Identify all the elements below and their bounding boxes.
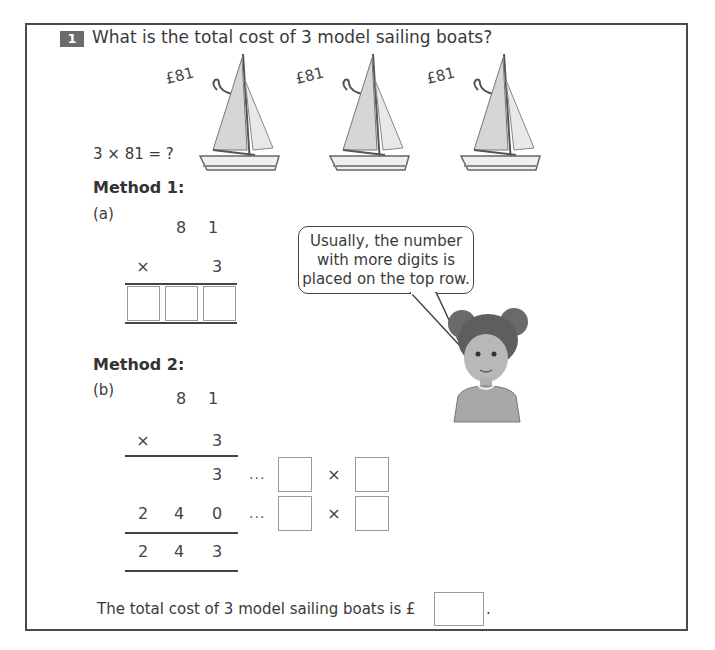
- partial2-tens: 4: [171, 504, 187, 523]
- method1-multiplier: 3: [209, 257, 225, 276]
- conclusion-text: The total cost of 3 model sailing boats …: [97, 600, 416, 618]
- girl-character-illustration: [440, 300, 535, 425]
- partial1-factor-box-1[interactable]: [278, 457, 312, 492]
- total-hundreds: 2: [135, 542, 151, 561]
- method2-tens-digit: 8: [173, 389, 189, 408]
- conclusion-period: .: [486, 600, 491, 618]
- method1-operator: ×: [135, 257, 151, 276]
- method1-ones-digit: 1: [205, 218, 221, 237]
- partial2-hundreds: 2: [135, 504, 151, 523]
- partial1-factor-box-2[interactable]: [355, 457, 389, 492]
- method1-answer-box-tens[interactable]: [165, 286, 198, 321]
- method1-bottom-rule: [125, 322, 237, 324]
- partial2-times: ×: [326, 504, 342, 523]
- partial2-ones: 0: [209, 504, 225, 523]
- speech-line-2: with more digits is: [299, 251, 473, 270]
- equation-text: 3 × 81 = ?: [93, 145, 174, 163]
- method1-answer-box-hundreds[interactable]: [127, 286, 160, 321]
- method2-rule-1: [125, 455, 238, 457]
- method2-rule-2: [125, 532, 238, 534]
- question-number-badge: 1: [60, 31, 84, 47]
- sailboat-icon: [325, 52, 415, 177]
- method2-operator: ×: [135, 431, 151, 450]
- method1-answer-box-ones[interactable]: [203, 286, 236, 321]
- total-ones: 3: [209, 542, 225, 561]
- partial2-factor-box-2[interactable]: [355, 496, 389, 531]
- partial1-ellipsis: ...: [249, 466, 265, 482]
- speech-line-3: placed on the top row.: [299, 270, 473, 289]
- speech-line-1: Usually, the number: [299, 232, 473, 251]
- total-tens: 4: [171, 542, 187, 561]
- method2-rule-3: [125, 570, 238, 572]
- speech-bubble: Usually, the number with more digits is …: [298, 226, 474, 294]
- partial1-ones: 3: [209, 465, 225, 484]
- sailboat-icon: [456, 52, 546, 177]
- sailboat-icon: [195, 52, 285, 177]
- method1-top-rule: [125, 283, 237, 285]
- method2-ones-digit: 1: [205, 389, 221, 408]
- method2-heading: Method 2:: [93, 355, 184, 374]
- partial2-factor-box-1[interactable]: [278, 496, 312, 531]
- final-answer-box[interactable]: [434, 592, 484, 626]
- method2-label: (b): [93, 381, 114, 399]
- partial2-ellipsis: ...: [249, 505, 265, 521]
- question-text: What is the total cost of 3 model sailin…: [92, 27, 492, 47]
- partial1-times: ×: [326, 465, 342, 484]
- method2-multiplier: 3: [209, 431, 225, 450]
- method1-label: (a): [93, 205, 114, 223]
- method1-heading: Method 1:: [93, 178, 184, 197]
- method1-tens-digit: 8: [173, 218, 189, 237]
